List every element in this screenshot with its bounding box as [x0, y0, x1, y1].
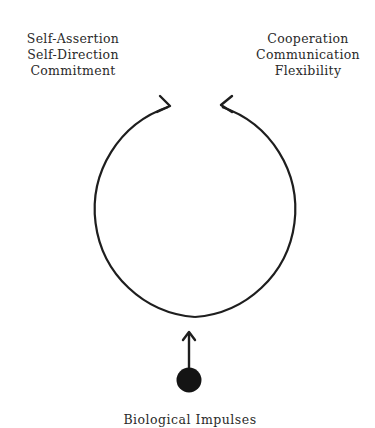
source-dot-icon	[177, 368, 202, 393]
biological-impulses-label: Biological Impulses	[100, 412, 280, 427]
cycle-diagram	[0, 0, 375, 428]
right-arc	[195, 107, 295, 317]
right-arrowhead-icon	[221, 96, 232, 112]
left-arc	[95, 107, 195, 317]
